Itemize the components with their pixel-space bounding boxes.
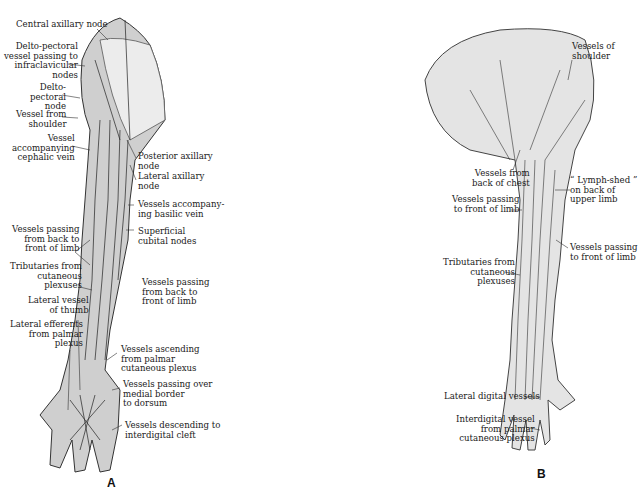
label-vessels-passing-to-front-b1: Vessels passing to front of limb	[452, 195, 520, 214]
panel-b-arm-drawing	[425, 29, 594, 450]
label-vessels-passing-over-medial-border: Vessels passing over medial border to do…	[123, 380, 212, 409]
panel-letter-b: B	[537, 467, 546, 481]
label-delto-pectoral-node: Delto- pectoral node	[30, 83, 66, 112]
label-tributaries-from-cutaneous-plexuses-b: Tributaries from cutaneous plexuses	[443, 258, 515, 287]
label-tributaries-from-cutaneous-plexuses-a: Tributaries from cutaneous plexuses	[10, 262, 82, 291]
label-posterior-axillary-node: Posterior axillary node	[138, 152, 213, 171]
lymphatics-illustration	[0, 0, 641, 496]
label-lateral-efferents-from-palmar-plexus: Lateral efferents from palmar plexus	[10, 320, 83, 349]
label-vessels-accompanying-basilic-vein: Vessels accompany- ing basilic vein	[138, 200, 224, 219]
label-delto-pectoral-vessel: Delto-pectoral vessel passing to infracl…	[4, 42, 78, 80]
label-vessels-of-shoulder: Vessels of shoulder	[572, 42, 615, 61]
label-vessels-ascending-from-palmar-plexus: Vessels ascending from palmar cutaneous …	[121, 345, 200, 374]
label-interdigital-vessel-from-palmar-plexus: Interdigital vessel from palmar cutaneou…	[456, 415, 535, 444]
panel-letter-a: A	[107, 476, 116, 490]
label-vessels-passing-back-to-front-a2: Vessels passing from back to front of li…	[142, 278, 210, 307]
label-vessels-from-back-of-chest: Vessels from back of chest	[472, 169, 530, 188]
label-lymph-shed-back-of-upper-limb: “ Lymph-shed ” on back of upper limb	[570, 176, 637, 205]
label-vessel-accompanying-cephalic-vein: Vessel accompanying cephalic vein	[12, 134, 75, 163]
label-vessel-from-shoulder: Vessel from shoulder	[16, 110, 67, 129]
label-lateral-vessel-of-thumb: Lateral vessel of thumb	[28, 296, 89, 315]
label-vessels-descending-to-interdigital-cleft: Vessels descending to interdigital cleft	[125, 421, 220, 440]
label-vessels-passing-to-front-b2: Vessels passing to front of limb	[570, 243, 638, 262]
label-vessels-passing-back-to-front-a1: Vessels passing from back to front of li…	[12, 225, 80, 254]
label-lateral-digital-vessels: Lateral digital vessels	[444, 392, 540, 402]
label-lateral-axillary-node: Lateral axillary node	[138, 172, 204, 191]
label-central-axillary-node: Central axillary node	[16, 20, 108, 30]
label-superficial-cubital-nodes: Superficial cubital nodes	[138, 227, 196, 246]
